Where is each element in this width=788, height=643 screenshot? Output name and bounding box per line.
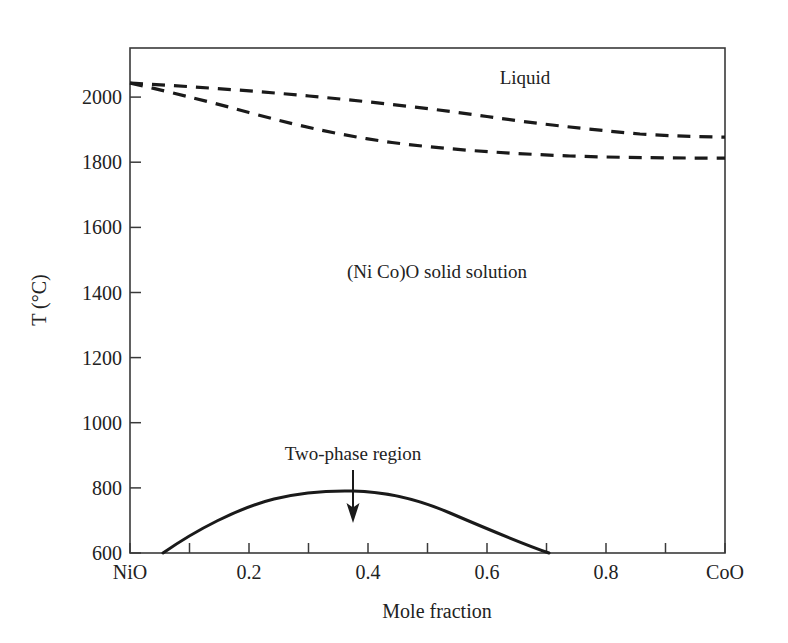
x-tick-labels: NiO 0.2 0.4 0.6 0.8 CoO (113, 561, 744, 583)
annotation-solid-solution: (Ni Co)O solid solution (347, 261, 527, 283)
y-tick-label-2000: 2000 (82, 86, 122, 108)
x-tick-label-0-4: 0.4 (356, 561, 381, 583)
plot-frame (130, 48, 725, 553)
y-tick-label-1400: 1400 (82, 282, 122, 304)
y-axis-title: T (°C) (28, 274, 51, 326)
y-tick-label-1000: 1000 (82, 412, 122, 434)
x-tick-label-coo: CoO (706, 561, 744, 583)
annotation-liquid: Liquid (500, 67, 551, 88)
x-tick-label-0-2: 0.2 (237, 561, 262, 583)
phase-diagram-svg: 600 800 1000 1200 1400 1600 1800 2000 Ni… (0, 0, 788, 643)
y-tick-label-800: 800 (92, 477, 122, 499)
annotation-two-phase-region: Two-phase region (285, 443, 422, 464)
x-axis-title: Mole fraction (382, 600, 491, 622)
x-tick-label-0-8: 0.8 (594, 561, 619, 583)
y-tick-label-1200: 1200 (82, 347, 122, 369)
x-tick-label-nio: NiO (113, 561, 147, 583)
y-tick-label-1800: 1800 (82, 151, 122, 173)
y-tick-label-1600: 1600 (82, 216, 122, 238)
y-tick-labels: 600 800 1000 1200 1400 1600 1800 2000 (82, 86, 122, 564)
phase-diagram-figure: 600 800 1000 1200 1400 1600 1800 2000 Ni… (0, 0, 788, 643)
x-tick-label-0-6: 0.6 (475, 561, 500, 583)
